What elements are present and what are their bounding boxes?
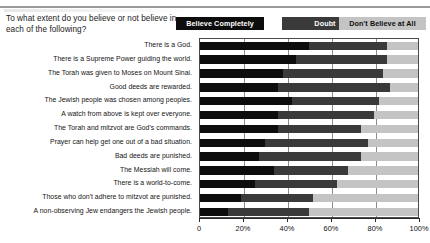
bar-segment-1[interactable] [228,208,309,216]
category-label: There is a God. [144,38,192,52]
stacked-bar[interactable] [200,55,418,63]
legend-item-0[interactable]: Believe Completely [176,17,264,30]
bar-segment-0[interactable] [200,69,283,77]
category-label: Bad deeds are punished. [115,149,192,163]
x-tick-label: 40% [280,224,295,233]
chart-legend: Believe CompletelyDoubtDon't Believe at … [176,17,426,31]
bar-segment-0[interactable] [200,166,274,174]
legend-item-label: Believe Completely [186,19,254,28]
x-tick-mark-100 [419,218,420,222]
bar-segment-1[interactable] [283,69,383,77]
bar-segment-0[interactable] [200,194,241,202]
category-label: The Messiah will come. [120,163,192,177]
category-label: A watch from above is kept over everyone… [61,107,192,121]
bar-segment-1[interactable] [278,83,389,91]
bar-segment-0[interactable] [200,180,255,188]
bar-segment-2[interactable] [309,208,418,216]
bar-segment-0[interactable] [200,55,296,63]
chart-row [200,150,418,164]
bar-segment-1[interactable] [278,125,361,133]
category-label: Prayer can help get one out of a bad sit… [50,135,192,149]
stacked-bar[interactable] [200,152,418,160]
chart-plot-area [199,38,419,218]
stacked-bar[interactable] [200,139,418,147]
stacked-bar[interactable] [200,194,418,202]
bar-segment-0[interactable] [200,42,309,50]
bar-segment-2[interactable] [361,125,418,133]
bar-segment-2[interactable] [361,152,418,160]
category-label: The Torah and mitzvot are God's commands… [54,121,192,135]
stacked-bar[interactable] [200,125,418,133]
chart-screenshot: To what extent do you believe or not bel… [0,0,430,243]
stacked-bar[interactable] [200,69,418,77]
bar-segment-1[interactable] [241,194,313,202]
chart-row [200,122,418,136]
bar-segment-1[interactable] [259,152,361,160]
category-label: The Torah was given to Moses on Mount Si… [48,66,192,80]
x-tick-label: 0 [197,224,201,233]
chart-row [200,205,418,219]
category-label: There is a Supreme Power guiding the wor… [53,52,192,66]
x-tick-mark-20 [243,218,244,222]
bar-segment-2[interactable] [387,55,418,63]
bar-segment-0[interactable] [200,152,259,160]
bar-segment-0[interactable] [200,83,278,91]
category-label: A non-observing Jew endangers the Jewish… [34,204,192,218]
chart-row [200,53,418,67]
bar-segment-2[interactable] [374,111,418,119]
chart-row [200,108,418,122]
x-tick-mark-80 [375,218,376,222]
bar-segment-0[interactable] [200,97,292,105]
category-label: The Jewish people was chosen among peopl… [44,93,192,107]
chart-row [200,136,418,150]
bar-segment-2[interactable] [348,166,418,174]
stacked-bar[interactable] [200,111,418,119]
bar-segment-1[interactable] [255,180,338,188]
bar-segment-1[interactable] [296,55,388,63]
bar-segment-1[interactable] [274,166,348,174]
bar-segment-2[interactable] [368,139,418,147]
bar-segment-1[interactable] [265,139,367,147]
chart-bars [200,39,418,217]
stacked-bar[interactable] [200,208,418,216]
x-tick-label: 100% [410,224,429,233]
chart-row [200,164,418,178]
chart-row [200,191,418,205]
bar-segment-2[interactable] [337,180,418,188]
x-tick-label: 80% [368,224,383,233]
bar-segment-2[interactable] [390,83,418,91]
category-axis-labels: There is a God.There is a Supreme Power … [0,38,196,218]
category-label: There is a world-to-come. [113,176,192,190]
bar-segment-1[interactable] [292,97,379,105]
chart-row [200,177,418,191]
bar-segment-0[interactable] [200,125,278,133]
page-title: To what extent do you believe or not bel… [6,14,186,35]
x-tick-mark-40 [287,218,288,222]
chart-row [200,67,418,81]
top-divider-artifact [4,9,184,12]
bar-segment-2[interactable] [383,69,418,77]
bar-segment-0[interactable] [200,139,265,147]
x-tick-mark-0 [199,218,200,222]
bar-segment-2[interactable] [387,42,418,50]
bar-segment-0[interactable] [200,208,228,216]
stacked-bar[interactable] [200,83,418,91]
stacked-bar[interactable] [200,97,418,105]
bar-segment-1[interactable] [309,42,387,50]
x-tick-label: 20% [236,224,251,233]
stacked-bar[interactable] [200,42,418,50]
x-tick-label: 60% [324,224,339,233]
top-divider [0,6,430,8]
bar-segment-2[interactable] [379,97,418,105]
category-label: Those who don't adhere to mitzvot are pu… [42,190,192,204]
legend-item-2[interactable]: Don't Believe at All [339,17,426,30]
legend-item-label: Doubt [314,19,335,28]
stacked-bar[interactable] [200,180,418,188]
bar-segment-1[interactable] [278,111,374,119]
chart-row [200,94,418,108]
category-label: Good deeds are rewarded. [110,80,192,94]
stacked-bar[interactable] [200,166,418,174]
bar-segment-2[interactable] [313,194,418,202]
bar-segment-0[interactable] [200,111,278,119]
x-tick-mark-60 [331,218,332,222]
